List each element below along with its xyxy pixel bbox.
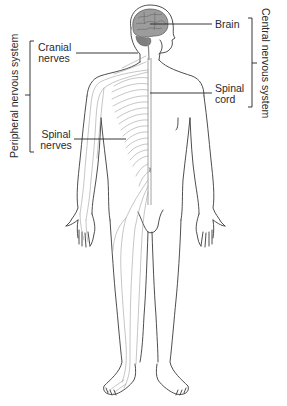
peripheral-bracket <box>25 41 34 152</box>
cranial-nerves-label: Cranial nerves <box>38 42 70 64</box>
peripheral-nerves-illustration <box>80 56 148 395</box>
body-outline <box>66 5 225 395</box>
central-bracket <box>248 18 257 107</box>
spinal-nerves-line2: nerves <box>40 140 72 151</box>
spinal-cord-label: Spinal cord <box>215 83 244 105</box>
spinal-nerves-label: Spinal nerves <box>40 129 72 151</box>
nervous-system-diagram: Cranial nerves Spinal nerves Brain Spina… <box>0 0 287 406</box>
brain-label: Brain <box>215 19 240 30</box>
spinal-cord-line2: cord <box>215 94 244 105</box>
peripheral-nervous-system-label: Peripheral nervous system <box>8 34 20 158</box>
central-nervous-system-label: Central nervous system <box>260 8 272 118</box>
spinal-cord-illustration <box>148 58 151 205</box>
cranial-nerves-line2: nerves <box>38 53 70 64</box>
brain-line1: Brain <box>215 19 240 30</box>
